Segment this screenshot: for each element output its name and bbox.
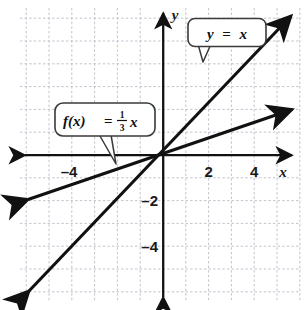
graph-figure: 4 2 –2 –4 –4 2 4 x y y = x xyxy=(0,0,308,310)
callout-fraction-denominator: 3 xyxy=(120,123,125,133)
y-tick-neg2: –2 xyxy=(141,192,158,209)
callout-y-lhs: y xyxy=(205,26,214,42)
x-tick-4: 4 xyxy=(250,163,259,180)
x-tick-neg4: –4 xyxy=(61,163,78,180)
callout-y-rhs: x xyxy=(239,26,248,42)
x-tick-2: 2 xyxy=(204,163,212,180)
callout-y-operator: = xyxy=(222,26,231,42)
x-axis-label: x xyxy=(278,164,287,180)
plotted-lines xyxy=(28,16,292,291)
callout-label-y-equals-x: y = x xyxy=(205,26,248,42)
y-tick-neg4: –4 xyxy=(141,238,158,255)
y-axis-label: y xyxy=(170,7,179,23)
callout-label-f-of-x-variable: x xyxy=(129,114,138,130)
callout-label-f-of-x-operator: = xyxy=(104,113,113,129)
coordinate-plane: 4 2 –2 –4 –4 2 4 x y y = x xyxy=(0,0,308,310)
callout-label-f-of-x-lhs: f(x) xyxy=(63,113,86,130)
callout-fraction-numerator: 1 xyxy=(120,110,125,120)
